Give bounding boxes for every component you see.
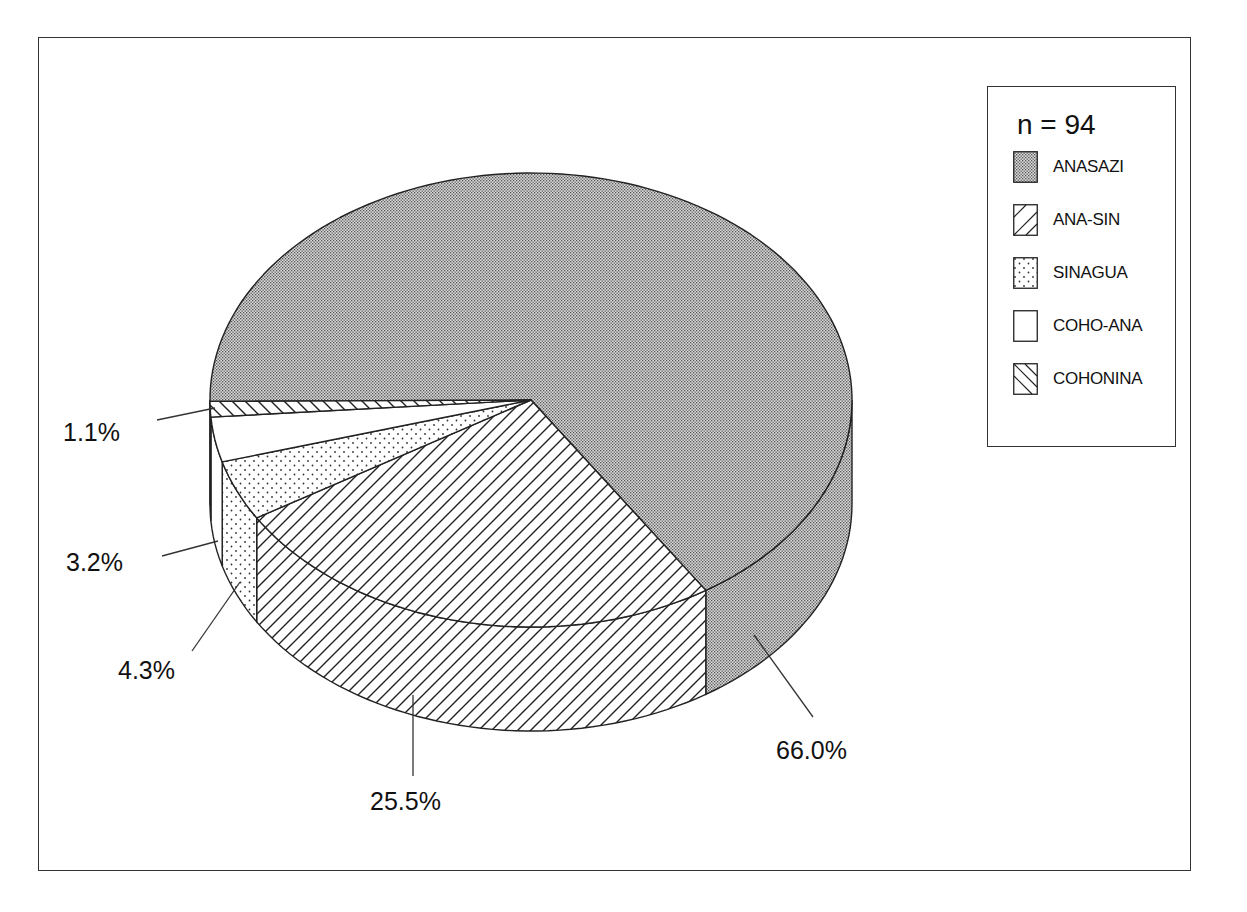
swatch-back-hatch-icon [1013, 363, 1038, 395]
sample-size-label: n = 94 [1017, 111, 1096, 139]
legend-item-anasazi: ANASAZI [1013, 151, 1173, 183]
legend-label: COHONINA [1053, 370, 1142, 387]
legend-label: COHO-ANA [1053, 317, 1142, 334]
legend-item-sinagua: SINAGUA [1013, 257, 1173, 289]
legend-item-cohonina: COHONINA [1013, 363, 1173, 395]
legend: n = 94 ANASAZI ANA-SIN SINAGUA COHO-ANA … [987, 86, 1176, 447]
legend-label: ANA-SIN [1053, 211, 1120, 228]
swatch-empty-icon [1013, 310, 1038, 342]
legend-item-ana-sin: ANA-SIN [1013, 204, 1173, 236]
legend-item-coho-ana: COHO-ANA [1013, 310, 1173, 342]
label-ana-sin-pct: 25.5% [370, 789, 441, 814]
swatch-sparse-dots-icon [1013, 257, 1038, 289]
label-coho-ana-pct: 3.2% [66, 550, 123, 575]
label-anasazi-pct: 66.0% [776, 738, 847, 763]
label-cohonina-pct: 1.1% [63, 420, 120, 445]
legend-label: SINAGUA [1053, 264, 1127, 281]
label-sinagua-pct: 4.3% [118, 658, 175, 683]
leader-cohonina [157, 408, 215, 420]
leader-anasazi [754, 635, 813, 717]
pie-top-surface [210, 173, 852, 627]
leader-coho-ana [162, 541, 218, 556]
legend-label: ANASAZI [1053, 158, 1124, 175]
swatch-forward-hatch-icon [1013, 204, 1038, 236]
leader-sinagua [192, 582, 240, 651]
swatch-fine-dots-icon [1013, 151, 1038, 183]
